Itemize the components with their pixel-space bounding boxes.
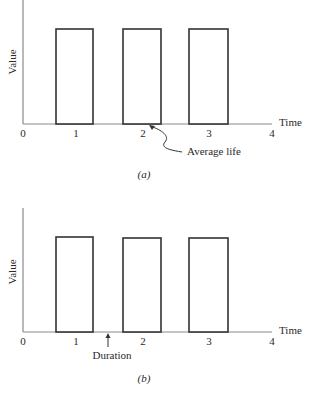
tick-b-1: 1 [73, 335, 79, 347]
pulse-a-3 [189, 29, 228, 124]
pulse-a-1 [56, 29, 93, 124]
tick-b-3: 3 [206, 335, 212, 347]
tick-b-4: 4 [269, 335, 275, 347]
y-axis-label-b: Value [6, 259, 18, 284]
tick-a-2: 2 [140, 127, 146, 139]
chart-b: Value Time 0 1 2 3 4 Duration (b) [6, 208, 302, 385]
tick-a-0: 0 [20, 127, 26, 139]
chart-a: Value Time 0 1 2 3 4 Average life (a) [6, 0, 302, 181]
average-life-label: Average life [187, 145, 241, 157]
caption-b: (b) [138, 372, 151, 385]
average-life-arrow [150, 126, 182, 152]
x-axis-label-a: Time [279, 116, 302, 128]
caption-a: (a) [138, 168, 151, 181]
figure-canvas: Value Time 0 1 2 3 4 Average life (a) Va… [0, 0, 320, 398]
pulse-b-2 [123, 238, 161, 332]
pulse-b-1 [56, 237, 93, 332]
tick-b-0: 0 [20, 335, 26, 347]
arrowhead-icon [106, 333, 111, 338]
tick-a-1: 1 [73, 127, 79, 139]
tick-a-3: 3 [206, 127, 212, 139]
pulse-b-3 [189, 238, 228, 332]
tick-a-4: 4 [269, 127, 275, 139]
duration-label: Duration [92, 349, 132, 361]
x-axis-label-b: Time [279, 324, 302, 336]
pulse-a-2 [123, 29, 161, 124]
tick-b-2: 2 [140, 335, 146, 347]
y-axis-label-a: Value [6, 49, 18, 74]
